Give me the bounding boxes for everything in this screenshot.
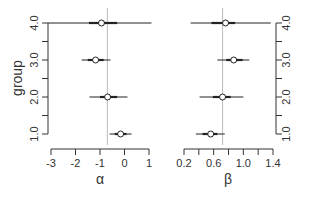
y-tick-label: 4.0 [280,15,292,30]
x-tick-label: 1.4 [265,157,280,169]
y-axis-label: group [9,60,25,96]
x-axis: -3-2-101α [46,149,152,187]
point-estimate [220,94,226,100]
x-tick-label: 1 [146,157,152,169]
data-series [191,20,271,137]
y-tick-label: 3.0 [28,52,40,67]
y-axis: 1.02.03.04.0 [276,15,292,141]
beta-panel: 0.20.61.01.4β1.02.03.04.0 [176,8,292,187]
alpha-panel: -3-2-101α1.02.03.04.0group [9,8,152,187]
point-estimate [93,57,99,63]
point-estimate [105,94,111,100]
y-tick-label: 2.0 [28,89,40,104]
x-tick-label: 1.0 [236,157,251,169]
x-axis: 0.20.61.01.4β [176,149,280,187]
y-tick-label: 3.0 [280,52,292,67]
x-tick-label: -2 [71,157,81,169]
x-tick-label: 0 [121,157,127,169]
x-tick-label: 0.2 [176,157,191,169]
x-axis-label: α [96,171,104,187]
x-axis-label: β [224,171,232,187]
y-tick-label: 4.0 [28,15,40,30]
x-tick-label: -3 [46,157,56,169]
forest-plot-figure: -3-2-101α1.02.03.04.0group 0.20.61.01.4β… [0,0,318,197]
data-series [48,20,151,137]
y-tick-label: 1.0 [28,126,40,141]
point-estimate [118,131,124,137]
y-tick-label: 2.0 [280,89,292,104]
point-estimate [208,131,214,137]
point-estimate [223,20,229,26]
y-tick-label: 1.0 [280,126,292,141]
y-axis: 1.02.03.04.0group [9,15,48,141]
x-tick-label: -1 [95,157,105,169]
point-estimate [98,20,104,26]
x-tick-label: 0.6 [206,157,221,169]
point-estimate [231,57,237,63]
